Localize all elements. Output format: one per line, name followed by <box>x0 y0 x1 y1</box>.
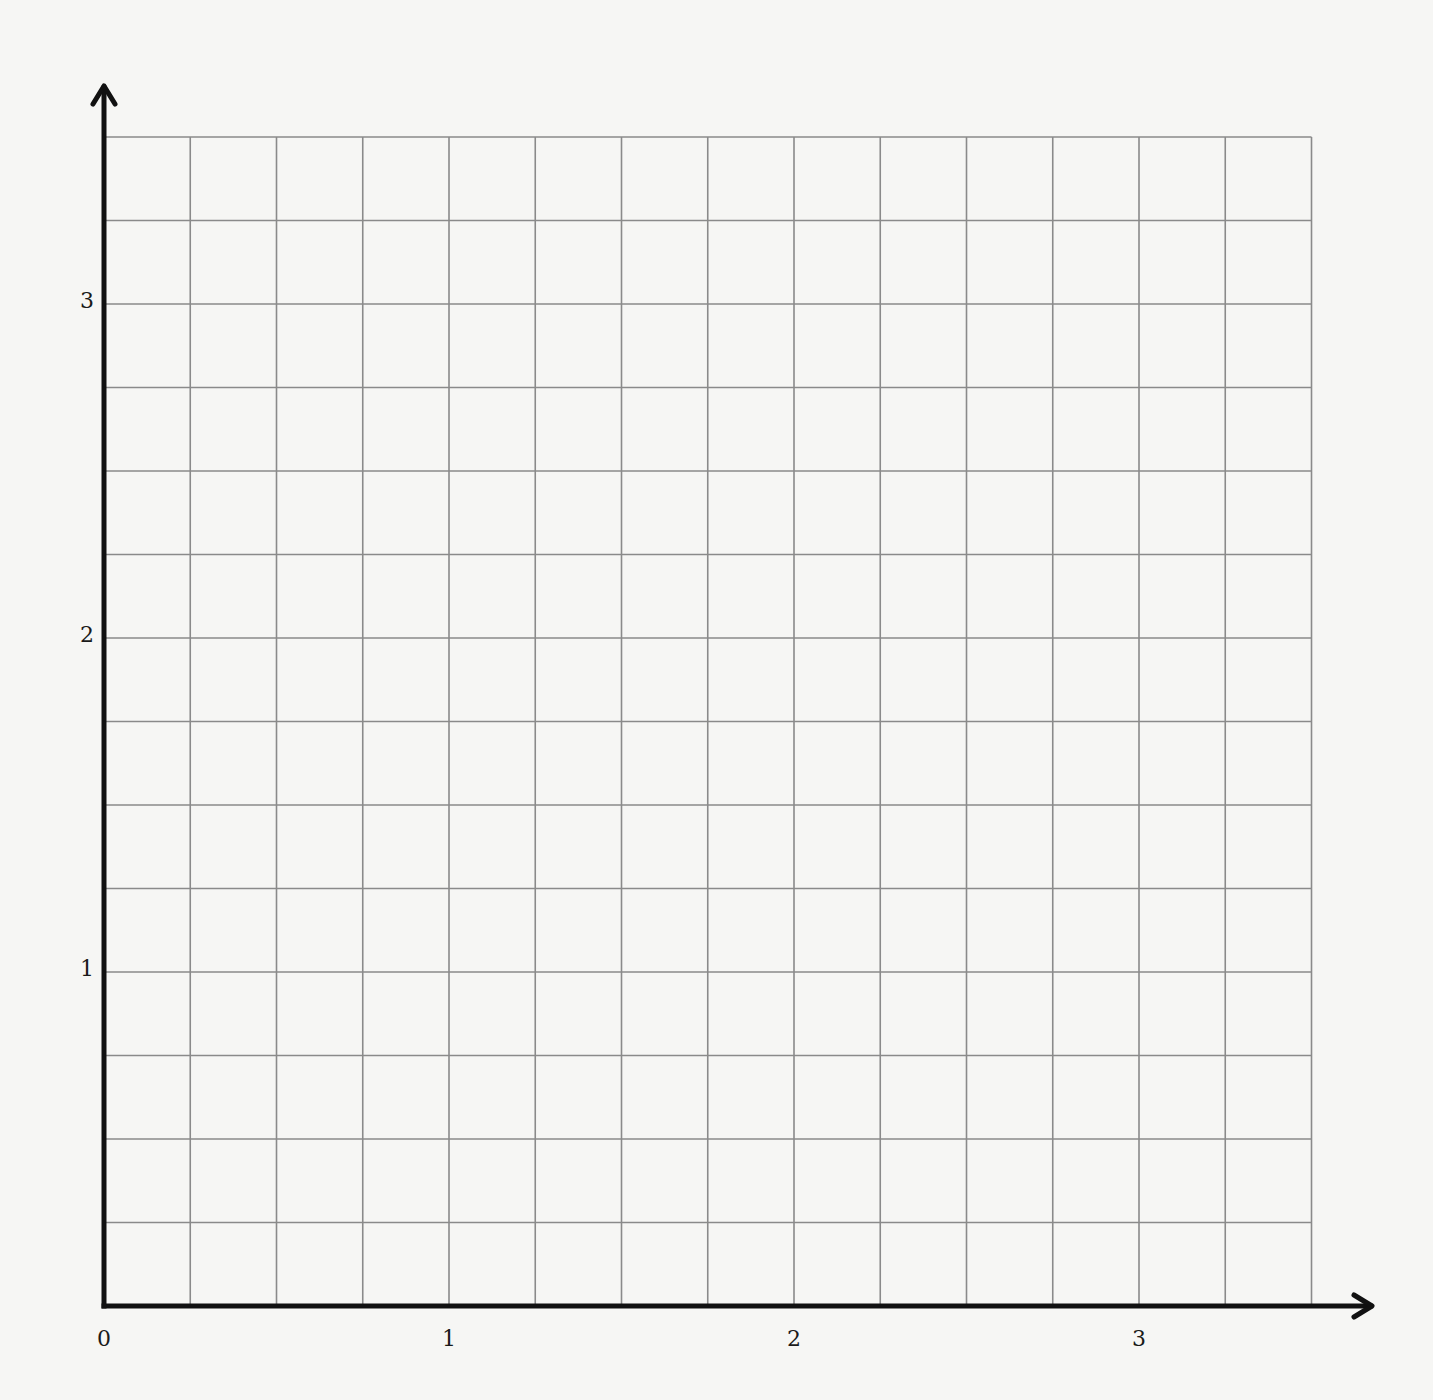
coordinate-grid-diagram: 0 1 2 3 1 2 3 <box>0 0 1433 1400</box>
y-tick-label-3: 3 <box>80 290 94 312</box>
x-tick-label-2: 2 <box>787 1328 801 1350</box>
x-tick-label-1: 1 <box>442 1328 456 1350</box>
y-tick-label-2: 2 <box>80 624 94 646</box>
axes <box>93 86 1372 1317</box>
grid-lines <box>104 137 1312 1306</box>
x-tick-label-0: 0 <box>97 1328 111 1350</box>
grid-canvas <box>0 0 1433 1400</box>
x-tick-label-3: 3 <box>1132 1328 1146 1350</box>
y-tick-label-1: 1 <box>80 958 94 980</box>
